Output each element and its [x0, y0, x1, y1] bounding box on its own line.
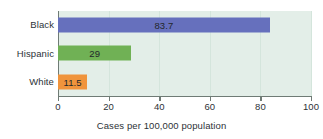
bar-value-label: 29 [89, 48, 100, 59]
bar-row: 29 [0, 39, 323, 67]
x-tick-label: 40 [154, 101, 165, 112]
bar-value-label: 11.5 [63, 76, 81, 87]
bar-row: 11.5 [0, 68, 323, 96]
bar-row: 83.7 [0, 11, 323, 39]
bar-value-label: 83.7 [154, 20, 173, 31]
x-axis-title: Cases per 100,000 population [0, 120, 323, 131]
x-tick-label: 80 [255, 101, 266, 112]
x-tick-label: 0 [55, 101, 60, 112]
x-tick-label: 20 [103, 101, 114, 112]
bar-chart: BlackHispanicWhite 83.72911.5 0204060801… [0, 0, 323, 139]
x-tick-label: 60 [205, 101, 216, 112]
x-tick-label: 100 [303, 101, 319, 112]
x-axis-line [58, 96, 311, 97]
